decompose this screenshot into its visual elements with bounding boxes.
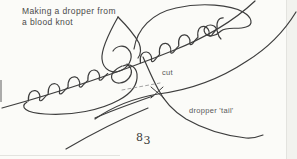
left-loop — [24, 65, 137, 114]
page-number-first-digit: 8 — [136, 131, 144, 144]
left-coil — [26, 66, 109, 105]
page-number: 83 — [136, 131, 151, 144]
figure-page: Making a dropper from a blood knot cut d… — [0, 0, 297, 159]
cut-leader-dashes — [122, 83, 160, 90]
dropper-tail-label: dropper 'tail' — [189, 106, 234, 115]
dropper-tail-line — [143, 57, 263, 138]
cut-label: cut — [162, 68, 173, 77]
caption-line-1: Making a dropper from — [22, 6, 116, 17]
figure-caption: Making a dropper from a blood knot — [22, 6, 116, 28]
caption-line-2: a blood knot — [22, 17, 116, 28]
page-number-second-digit: 3 — [144, 134, 152, 147]
